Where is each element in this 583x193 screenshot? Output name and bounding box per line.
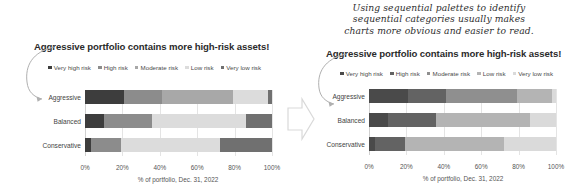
stacked-bar[interactable] (369, 137, 556, 151)
chart-title-after: Aggressive portfolio contains more high-… (326, 48, 561, 59)
annotation-line-1: Using sequential palettes to identify (315, 2, 563, 13)
chart-title-before: Aggressive portfolio contains more high-… (34, 41, 269, 52)
x-axis-tick-label: 100% (264, 164, 280, 171)
legend-swatch-icon (185, 66, 189, 70)
legend-label: Low risk (483, 70, 506, 77)
bar-segment[interactable] (388, 113, 437, 127)
annotation-line-3: charts more obvious and easier to read. (315, 25, 563, 36)
legend-item-high-risk: High risk (390, 70, 420, 77)
annotation-line-2: sequential categories usually makes (315, 13, 563, 24)
bar-segment[interactable] (121, 138, 220, 152)
bar-segment[interactable] (369, 89, 408, 103)
legend-item-moderate-risk: Moderate risk (427, 70, 470, 77)
legend-label: Very high risk (346, 70, 383, 77)
bar-row: Conservative (369, 137, 556, 151)
bar-segment[interactable] (530, 113, 556, 127)
curved-arrow-icon (314, 51, 348, 109)
stacked-bar[interactable] (85, 138, 272, 152)
bar-segment[interactable] (162, 90, 233, 104)
bar-segment[interactable] (369, 113, 388, 127)
bar-row-label: Aggressive (332, 93, 365, 100)
x-axis-tick-label: 100% (548, 163, 564, 170)
bar-row-label: Balanced (54, 118, 82, 125)
bar-segment[interactable] (405, 137, 504, 151)
legend-swatch-icon (390, 72, 394, 76)
legend-item-very-low-risk: Very low risk (221, 64, 262, 71)
bar-segment[interactable] (152, 114, 246, 128)
stacked-bar[interactable] (369, 113, 556, 127)
x-axis-tick-label: 80% (512, 163, 525, 170)
legend-label: Very low risk (226, 64, 261, 71)
legend-item-low-risk: Low risk (185, 64, 213, 71)
bar-segment[interactable] (268, 90, 272, 104)
bar-segment[interactable] (220, 138, 272, 152)
bar-segment[interactable] (436, 113, 530, 127)
bar-row: Balanced (85, 114, 272, 128)
x-axis-caption-before: % of portfolio, Dec. 31, 2022 (138, 176, 219, 183)
bar-row-label: Conservative (43, 142, 81, 149)
chart-legend-before: Very high risk High risk Moderate risk L… (48, 64, 261, 71)
legend-item-moderate-risk: Moderate risk (135, 64, 178, 71)
legend-swatch-icon (98, 66, 102, 70)
x-axis-tick-label: 20% (400, 163, 413, 170)
legend-label: Low risk (191, 64, 214, 71)
bar-segment[interactable] (233, 90, 269, 104)
bar-segment[interactable] (91, 138, 121, 152)
legend-label: Moderate risk (433, 70, 470, 77)
bar-row: Balanced (369, 113, 556, 127)
legend-label: High risk (104, 64, 128, 71)
bar-segment[interactable] (104, 114, 153, 128)
legend-item-very-low-risk: Very low risk (513, 70, 554, 77)
x-axis-tick-label: 80% (228, 164, 241, 171)
gridline (556, 89, 557, 155)
legend-label: High risk (396, 70, 420, 77)
legend-item-low-risk: Low risk (477, 70, 505, 77)
bar-row-label: Conservative (327, 141, 365, 148)
bar-segment[interactable] (552, 89, 556, 103)
bar-row-label: Aggressive (48, 94, 81, 101)
x-axis-tick-label: 60% (191, 164, 204, 171)
bar-segment[interactable] (517, 89, 553, 103)
bar-segment[interactable] (85, 114, 104, 128)
bar-row: Aggressive (369, 89, 556, 103)
x-axis-tick-label: 40% (153, 164, 166, 171)
bar-segment[interactable] (504, 137, 556, 151)
x-axis-tick-label: 0% (80, 164, 89, 171)
stacked-bar[interactable] (369, 89, 556, 103)
bar-segment[interactable] (246, 114, 272, 128)
bar-row: Conservative (85, 138, 272, 152)
legend-swatch-icon (135, 66, 139, 70)
bar-row: Aggressive (85, 90, 272, 104)
chart-panel-before: Aggressive portfolio contains more high-… (0, 0, 291, 193)
x-axis-tick-label: 20% (116, 164, 129, 171)
legend-label: Very low risk (518, 70, 553, 77)
legend-item-high-risk: High risk (98, 64, 128, 71)
legend-swatch-icon (427, 72, 431, 76)
legend-swatch-icon (513, 72, 517, 76)
legend-swatch-icon (477, 72, 481, 76)
x-axis-tick-label: 0% (364, 163, 373, 170)
legend-label: Very high risk (54, 64, 91, 71)
chart-panel-after: Using sequential palettes to identify se… (291, 0, 583, 193)
right-arrow-icon (286, 96, 316, 142)
x-axis-tick-label: 40% (437, 163, 450, 170)
chart-legend-after: Very high risk High risk Moderate risk L… (340, 70, 553, 77)
bar-row-label: Balanced (338, 117, 366, 124)
stacked-bar[interactable] (85, 114, 272, 128)
x-axis-tick-label: 60% (475, 163, 488, 170)
bar-segment[interactable] (375, 137, 405, 151)
bar-segment[interactable] (408, 89, 445, 103)
bar-segment[interactable] (85, 90, 124, 104)
bar-segment[interactable] (124, 90, 161, 104)
legend-swatch-icon (221, 66, 225, 70)
legend-label: Moderate risk (141, 64, 178, 71)
x-axis-caption-after: % of portfolio, Dec. 31, 2022 (423, 175, 504, 182)
sequential-palette-annotation: Using sequential palettes to identify se… (315, 2, 563, 36)
stacked-bar[interactable] (85, 90, 272, 104)
gridline (272, 90, 273, 156)
bar-segment[interactable] (446, 89, 517, 103)
